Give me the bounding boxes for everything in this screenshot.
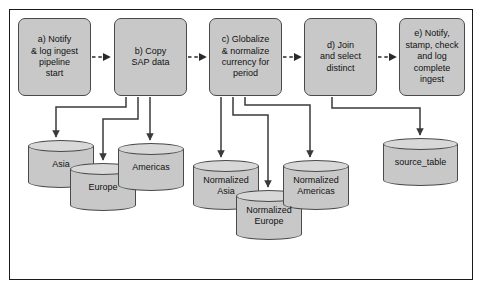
datastore-label: Normalized Europe — [236, 205, 302, 226]
cylinder-top — [28, 140, 94, 152]
datastore-label: Normalized Americas — [283, 175, 349, 196]
process-box-b[interactable]: b) Copy SAP data — [114, 18, 187, 96]
cylinder-top — [193, 160, 259, 172]
pipeline-diagram: a) Notify & log ingest pipeline start b)… — [0, 0, 484, 297]
datastore-label: Normalized Asia — [193, 175, 259, 196]
datastore-label: Americas — [118, 162, 184, 173]
cylinder-top — [383, 138, 458, 150]
datastore-label: source_table — [383, 157, 458, 168]
datastore-normalized-americas[interactable]: Normalized Americas — [283, 160, 349, 210]
datastore-source-table[interactable]: source_table — [383, 138, 458, 186]
process-box-a[interactable]: a) Notify & log ingest pipeline start — [18, 18, 91, 96]
process-box-d[interactable]: d) Join and select distinct — [304, 18, 377, 96]
datastore-label: Europe — [70, 182, 136, 193]
datastore-label: Asia — [28, 159, 94, 170]
cylinder-top — [283, 160, 349, 172]
process-box-c[interactable]: c) Globalize & normalize currency for pe… — [209, 18, 282, 96]
process-box-e[interactable]: e) Notify, stamp, check and log complete… — [399, 18, 465, 96]
cylinder-top — [118, 143, 184, 155]
